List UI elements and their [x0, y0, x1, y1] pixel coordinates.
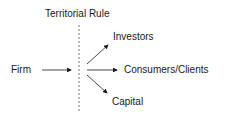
target-label-consumers: Consumers/Clients: [124, 64, 208, 76]
target-label-capital: Capital: [112, 96, 143, 108]
diagram-title: Territorial Rule: [45, 8, 109, 20]
arrow-to-investors: [87, 45, 108, 64]
source-label-firm: Firm: [11, 64, 31, 76]
arrow-to-capital: [87, 75, 107, 93]
target-label-investors: Investors: [113, 31, 154, 43]
